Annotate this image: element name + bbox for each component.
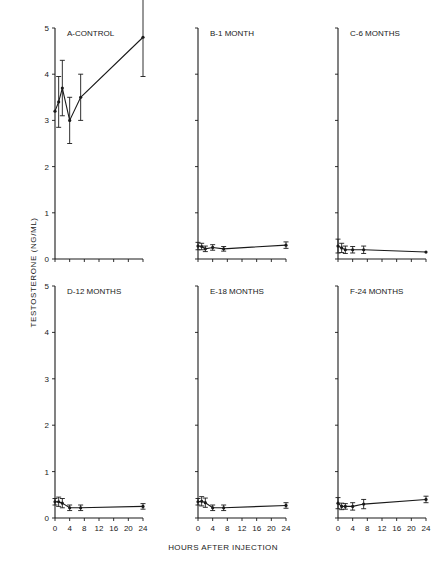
y-tick-label: 4 — [45, 70, 50, 79]
data-point — [336, 502, 339, 505]
data-point — [222, 247, 225, 250]
data-point — [141, 36, 144, 39]
x-tick-label: 8 — [225, 524, 230, 533]
x-tick-label: 0 — [336, 524, 341, 533]
x-tick-label: 8 — [82, 524, 87, 533]
panel-title: C-6 MONTHS — [350, 29, 400, 38]
figure-canvas: 012345A-CONTROLB-1 MONTHC-6 MONTHS012345… — [0, 0, 446, 564]
x-tick-label: 20 — [267, 524, 276, 533]
data-point — [344, 248, 347, 251]
panel-title: E-18 MONTHS — [210, 287, 264, 296]
panel-c: C-6 MONTHS — [335, 28, 428, 262]
y-tick-label: 1 — [45, 209, 50, 218]
panel-e: 04812162024E-18 MONTHS — [195, 286, 291, 533]
data-point — [53, 110, 56, 113]
data-point — [351, 505, 354, 508]
x-tick-label: 16 — [392, 524, 401, 533]
x-tick-label: 24 — [282, 524, 291, 533]
clipped-caption — [0, 558, 446, 564]
panel-title: F-24 MONTHS — [350, 287, 403, 296]
y-tick-label: 5 — [45, 282, 50, 291]
x-tick-label: 20 — [124, 524, 133, 533]
data-point — [284, 504, 287, 507]
data-point — [53, 500, 56, 503]
x-tick-label: 24 — [139, 524, 148, 533]
x-tick-label: 0 — [196, 524, 201, 533]
data-point — [336, 244, 339, 247]
data-point — [204, 247, 207, 250]
x-tick-label: 16 — [252, 524, 261, 533]
x-tick-label: 24 — [422, 524, 431, 533]
data-point — [424, 250, 427, 253]
data-point — [211, 506, 214, 509]
data-point — [196, 244, 199, 247]
x-tick-label: 4 — [67, 524, 72, 533]
panel-f: 04812162024F-24 MONTHS — [335, 286, 431, 533]
x-axis-label: HOURS AFTER INJECTION — [0, 543, 446, 552]
data-point — [196, 500, 199, 503]
data-point — [340, 246, 343, 249]
data-line — [198, 501, 286, 507]
x-tick-label: 4 — [350, 524, 355, 533]
x-tick-label: 8 — [365, 524, 370, 533]
data-point — [57, 500, 60, 503]
data-point — [211, 246, 214, 249]
panel-b: B-1 MONTH — [195, 28, 289, 262]
y-tick-label: 3 — [45, 116, 50, 125]
panel-d: 01234504812162024D-12 MONTHS — [45, 282, 148, 533]
panel-title: B-1 MONTH — [210, 29, 254, 38]
data-point — [284, 244, 287, 247]
x-tick-label: 12 — [378, 524, 387, 533]
data-point — [79, 96, 82, 99]
data-point — [204, 501, 207, 504]
y-tick-label: 2 — [45, 163, 50, 172]
x-tick-label: 0 — [53, 524, 58, 533]
y-tick-label: 0 — [45, 514, 50, 523]
data-point — [222, 506, 225, 509]
y-tick-label: 4 — [45, 328, 50, 337]
y-axis-label: TESTOSTERONE (NG/ML) — [29, 178, 38, 368]
data-point — [200, 500, 203, 503]
data-point — [340, 505, 343, 508]
panel-title: A-CONTROL — [67, 29, 115, 38]
data-point — [68, 506, 71, 509]
data-point — [200, 245, 203, 248]
x-tick-label: 4 — [210, 524, 215, 533]
y-tick-label: 0 — [45, 255, 50, 264]
data-point — [362, 502, 365, 505]
data-point — [79, 506, 82, 509]
x-tick-label: 16 — [109, 524, 118, 533]
x-tick-label: 20 — [407, 524, 416, 533]
y-tick-label: 2 — [45, 421, 50, 430]
x-tick-label: 12 — [238, 524, 247, 533]
data-point — [362, 248, 365, 251]
y-tick-label: 5 — [45, 24, 50, 33]
x-tick-label: 12 — [95, 524, 104, 533]
data-point — [57, 100, 60, 103]
y-tick-label: 1 — [45, 468, 50, 477]
data-point — [351, 248, 354, 251]
data-point — [61, 86, 64, 89]
data-point — [424, 498, 427, 501]
data-line — [55, 37, 143, 120]
panel-a: 012345A-CONTROL — [45, 0, 146, 264]
data-point — [61, 502, 64, 505]
y-tick-label: 3 — [45, 375, 50, 384]
data-point — [141, 505, 144, 508]
data-point — [344, 505, 347, 508]
data-point — [68, 119, 71, 122]
panel-title: D-12 MONTHS — [67, 287, 121, 296]
